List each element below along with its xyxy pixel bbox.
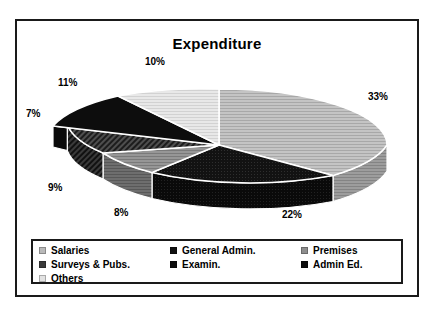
legend-swatch-others <box>39 275 46 282</box>
legend-item-general-admin[interactable]: General Admin. <box>170 245 301 256</box>
chart-frame: Expenditure <box>15 19 419 297</box>
pie-svg <box>17 51 421 236</box>
legend-swatch-salaries <box>39 247 46 254</box>
legend-swatch-surveys-pubs <box>39 261 46 268</box>
legend-label-premises: Premises <box>313 245 357 256</box>
legend-swatch-examin <box>170 261 177 268</box>
legend-swatch-premises <box>301 247 308 254</box>
legend-label-surveys-pubs: Surveys & Pubs. <box>51 259 130 270</box>
legend-item-salaries[interactable]: Salaries <box>39 245 170 256</box>
legend-item-others[interactable]: Others <box>39 273 170 284</box>
legend-label-others: Others <box>51 273 83 284</box>
pie-label-general-admin: 22% <box>282 209 302 220</box>
legend-item-surveys-pubs[interactable]: Surveys & Pubs. <box>39 259 170 270</box>
chart-legend: Salaries General Admin. Premises Surveys… <box>31 239 403 284</box>
legend-item-admin-ed[interactable]: Admin Ed. <box>301 259 401 270</box>
pie-chart: 33% 22% 8% 9% 7% 11% 10% <box>17 51 421 236</box>
pie-label-others: 10% <box>145 56 165 67</box>
pie-label-surveys-pubs: 9% <box>48 182 62 193</box>
pie-label-examin: 7% <box>26 108 40 119</box>
pie-label-premises: 8% <box>114 207 128 218</box>
legend-label-admin-ed: Admin Ed. <box>313 259 362 270</box>
pie-label-salaries: 33% <box>368 91 388 102</box>
legend-item-examin[interactable]: Examin. <box>170 259 301 270</box>
legend-row: Surveys & Pubs. Examin. Admin Ed. <box>39 258 401 271</box>
legend-swatch-general-admin <box>170 247 177 254</box>
legend-swatch-admin-ed <box>301 261 308 268</box>
pie-label-admin-ed: 11% <box>58 77 77 88</box>
legend-label-general-admin: General Admin. <box>182 245 256 256</box>
pie-slice-side-examin <box>53 125 67 151</box>
legend-row: Salaries General Admin. Premises <box>39 244 401 257</box>
legend-label-examin: Examin. <box>182 259 220 270</box>
chart-title: Expenditure <box>17 35 417 52</box>
legend-item-premises[interactable]: Premises <box>301 245 401 256</box>
legend-label-salaries: Salaries <box>51 245 89 256</box>
legend-row: Others <box>39 272 401 285</box>
